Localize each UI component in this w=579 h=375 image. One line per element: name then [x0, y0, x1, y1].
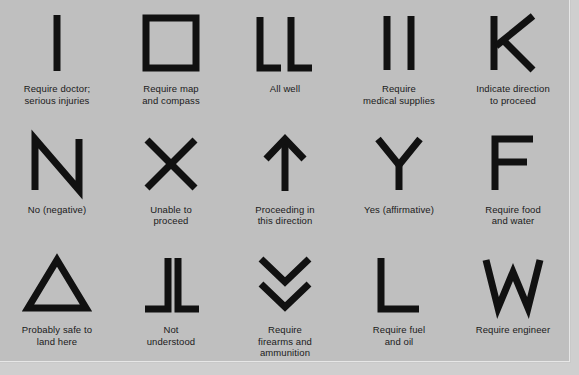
signal-cell-no-negative: No (negative) [0, 121, 114, 242]
signal-caption: Require firearms and ammunition [258, 324, 312, 359]
signal-caption: Not understood [147, 324, 196, 347]
caption-line: and compass [142, 95, 200, 107]
caption-line: Require engineer [476, 324, 550, 336]
caption-line: firearms and [258, 336, 312, 348]
caption-line: Require fuel [373, 324, 425, 336]
signal-cell-require-engineer: Require engineer [456, 241, 570, 362]
right-margin [571, 0, 579, 375]
signal-cell-require-map-and-compass: Require map and compass [114, 0, 228, 121]
caption-line: proceed [150, 215, 192, 227]
signal-caption: Require engineer [476, 324, 550, 336]
letter-w-icon [456, 251, 570, 317]
letter-x-icon [114, 131, 228, 197]
signal-cell-require-medical-supplies: Require medical supplies [342, 0, 456, 121]
signal-caption: Unable to proceed [150, 204, 192, 227]
letter-f-icon [456, 131, 570, 197]
signal-caption: Require map and compass [142, 83, 200, 106]
caption-line: to proceed [476, 95, 550, 107]
double-chevron-down-icon [228, 251, 342, 317]
caption-line: Require map [142, 83, 200, 95]
signal-cell-all-well: All well [228, 0, 342, 121]
caption-line: medical supplies [363, 95, 435, 107]
signal-caption: Yes (affirmative) [364, 204, 434, 216]
signal-caption: Require medical supplies [363, 83, 435, 106]
open-triangle-icon [0, 251, 114, 317]
caption-line: this direction [255, 215, 314, 227]
caption-line: Require [258, 324, 312, 336]
signal-caption: Indicate direction to proceed [476, 83, 550, 106]
caption-line: Probably safe to [22, 324, 92, 336]
caption-line: Yes (affirmative) [364, 204, 434, 216]
signal-cell-proceeding-in-this-direction: Proceeding in this direction [228, 121, 342, 242]
signal-cell-indicate-direction-to-proceed: Indicate direction to proceed [456, 0, 570, 121]
signal-code-chart: Require doctor; serious injuries Require… [0, 0, 579, 375]
caption-line: and water [485, 215, 541, 227]
signal-cell-yes-affirmative: Yes (affirmative) [342, 121, 456, 242]
double-L-icon [228, 10, 342, 76]
letter-n-icon [0, 131, 114, 197]
caption-line: Require food [485, 204, 541, 216]
caption-line: Not [147, 324, 196, 336]
signal-caption: Require food and water [485, 204, 541, 227]
bottom-margin [0, 363, 579, 375]
caption-line: Require [363, 83, 435, 95]
signal-cell-require-fuel-and-oil: Require fuel and oil [342, 241, 456, 362]
signal-cell-require-firearms-and-ammunition: Require firearms and ammunition [228, 241, 342, 362]
up-arrow-icon [228, 131, 342, 197]
signal-cell-not-understood: Not understood [114, 241, 228, 362]
letter-l-icon [342, 251, 456, 317]
letter-k-icon [456, 10, 570, 76]
caption-line: ammunition [258, 347, 312, 359]
signal-grid: Require doctor; serious injuries Require… [0, 0, 570, 362]
caption-line: Unable to [150, 204, 192, 216]
signal-cell-require-doctor: Require doctor; serious injuries [0, 0, 114, 121]
letter-y-icon [342, 131, 456, 197]
caption-line: serious injuries [24, 95, 90, 107]
caption-line: understood [147, 336, 196, 348]
mirrored-L-and-L-icon [114, 251, 228, 317]
caption-line: and oil [373, 336, 425, 348]
caption-line: No (negative) [28, 204, 86, 216]
signal-caption: Require doctor; serious injuries [24, 83, 90, 106]
caption-line: Proceeding in [255, 204, 314, 216]
caption-line: All well [270, 83, 300, 95]
vertical-bar-icon [0, 10, 114, 76]
signal-caption: All well [270, 83, 300, 95]
signal-cell-require-food-and-water: Require food and water [456, 121, 570, 242]
signal-caption: Probably safe to land here [22, 324, 92, 347]
signal-cell-unable-to-proceed: Unable to proceed [114, 121, 228, 242]
caption-line: land here [22, 336, 92, 348]
signal-caption: Require fuel and oil [373, 324, 425, 347]
double-vertical-bar-icon [342, 10, 456, 76]
signal-cell-probably-safe-to-land-here: Probably safe to land here [0, 241, 114, 362]
signal-caption: No (negative) [28, 204, 86, 216]
caption-line: Indicate direction [476, 83, 550, 95]
caption-line: Require doctor; [24, 83, 90, 95]
open-square-icon [114, 10, 228, 76]
signal-caption: Proceeding in this direction [255, 204, 314, 227]
